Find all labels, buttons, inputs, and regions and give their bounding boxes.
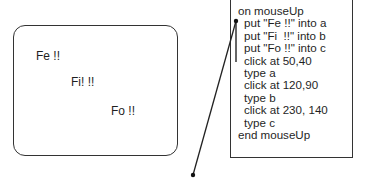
field-fo[interactable]: Fo !! bbox=[111, 105, 135, 118]
field-fe[interactable]: Fe !! bbox=[36, 50, 60, 63]
script-lines: on mouseUp put "Fe !!" into a put "Fi !!… bbox=[238, 5, 328, 141]
card-window bbox=[13, 25, 178, 156]
field-fi[interactable]: Fi! !! bbox=[71, 76, 94, 89]
script-line: click at 230, 140 bbox=[238, 104, 328, 116]
script-line: put "Fe !!" into a bbox=[238, 17, 328, 29]
script-line: click at 120,90 bbox=[238, 79, 328, 91]
pointer-dot-bottom bbox=[191, 173, 195, 177]
script-line: put "Fo !!" into c bbox=[238, 42, 328, 54]
script-line: end mouseUp bbox=[238, 129, 328, 141]
